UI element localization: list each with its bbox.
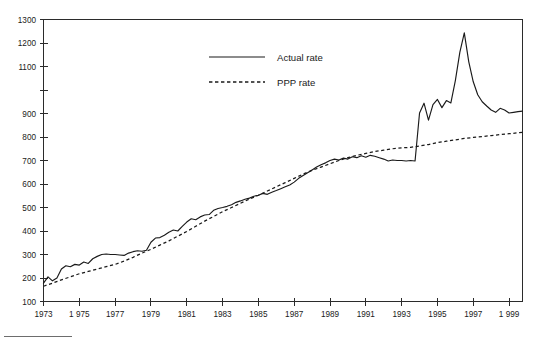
footnote-separator-rule bbox=[4, 336, 72, 337]
x-tick-label: 1983 bbox=[213, 310, 232, 319]
legend-label: PPP rate bbox=[277, 77, 315, 88]
y-tick-label: 600 bbox=[22, 180, 36, 189]
y-tick-label: 500 bbox=[22, 204, 36, 213]
x-tick-label: 1995 bbox=[428, 310, 447, 319]
x-tick-label: 1 975 bbox=[69, 310, 90, 319]
series-actual-rate bbox=[44, 33, 523, 283]
x-tick-label: 1991 bbox=[357, 310, 376, 319]
y-tick-label: 900 bbox=[22, 110, 36, 119]
data-series-layer bbox=[44, 33, 523, 286]
legend-label: Actual rate bbox=[277, 52, 323, 63]
y-tick-label: 100 bbox=[22, 298, 36, 307]
exchange-rate-line-chart: 130012001100900800700600500400300200100 … bbox=[0, 0, 538, 344]
series-ppp-rate bbox=[44, 132, 523, 286]
y-tick-label: 1200 bbox=[18, 39, 37, 48]
x-tick-label: 1981 bbox=[178, 310, 197, 319]
x-tick-label: 1987 bbox=[285, 310, 304, 319]
y-tick-label: 1300 bbox=[18, 16, 37, 25]
chart-figure: 130012001100900800700600500400300200100 … bbox=[0, 0, 538, 344]
x-tick-label: 1977 bbox=[106, 310, 125, 319]
x-tick-label: 1973 bbox=[34, 310, 53, 319]
y-tick-label: 800 bbox=[22, 133, 36, 142]
x-tick-label: 1989 bbox=[321, 310, 340, 319]
x-tick-label: 1979 bbox=[142, 310, 161, 319]
y-tick-label: 1100 bbox=[18, 63, 36, 72]
x-tick-label: 1993 bbox=[393, 310, 412, 319]
x-tick-label: 1985 bbox=[249, 310, 268, 319]
chart-legend: Actual ratePPP rate bbox=[209, 52, 323, 88]
y-tick-label: 200 bbox=[22, 274, 36, 283]
y-axis-tick-labels: 130012001100900800700600500400300200100 bbox=[18, 16, 37, 307]
x-tick-label: 1997 bbox=[464, 310, 483, 319]
y-tick-label: 400 bbox=[22, 227, 36, 236]
y-tick-label: 300 bbox=[22, 251, 36, 260]
x-tick-label: 1 999 bbox=[499, 310, 520, 319]
y-tick-label: 700 bbox=[22, 157, 36, 166]
x-axis-tick-labels: 19731 9751977197919811983198519871989199… bbox=[34, 310, 519, 319]
